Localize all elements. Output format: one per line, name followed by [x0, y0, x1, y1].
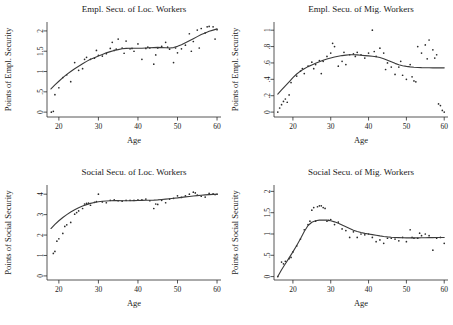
y-tick-label: 1 [263, 232, 272, 236]
x-tick-label: 20 [55, 122, 63, 131]
y-tick-label: 2 [36, 233, 45, 237]
panel-soc-loc: Social Secu. of Loc. Workers012342030405… [0, 163, 226, 325]
panel-soc-mig: Social Secu. of Mig. Workers0.511.522030… [227, 163, 453, 325]
scatter-points [277, 29, 445, 113]
x-tick-label: 60 [440, 122, 448, 131]
y-tick-label: 0 [36, 274, 45, 278]
fit-line [51, 194, 217, 228]
y-axis-label: Points of Social Security [230, 190, 240, 275]
y-tick-label: .5 [36, 89, 45, 95]
y-tick-label: 2 [263, 189, 272, 193]
panel-title: Social Secu. of Loc. Workers [81, 167, 187, 177]
y-tick-label: 1.5 [263, 208, 272, 218]
x-tick-label: 40 [134, 285, 142, 294]
panel-empl-mig: Empl. Secu. of Mig. Workers0.2.4.6.81203… [227, 0, 453, 162]
x-tick-label: 20 [55, 285, 63, 294]
y-tick-label: 4 [36, 192, 45, 196]
panel-title: Social Secu. of Mig. Workers [308, 167, 415, 177]
x-tick-label: 40 [365, 285, 373, 294]
y-tick-label: 1 [36, 69, 45, 73]
x-tick-label: 50 [174, 122, 182, 131]
x-tick-label: 50 [403, 285, 411, 294]
y-tick-label: 0 [263, 110, 272, 114]
panel-title: Empl. Secu. of Mig. Workers [308, 4, 414, 14]
x-axis-label: Age [127, 298, 141, 308]
fit-line [278, 55, 444, 94]
x-tick-label: 40 [134, 122, 142, 131]
x-axis-label: Age [354, 298, 368, 308]
y-tick-label: 3 [36, 212, 45, 216]
x-tick-label: 50 [174, 285, 182, 294]
x-tick-label: 20 [289, 122, 297, 131]
panel-empl-loc: Empl. Secu. of Loc. Workers0.511.5220304… [0, 0, 226, 162]
y-tick-label: .2 [263, 93, 272, 99]
y-tick-label: .4 [263, 76, 272, 82]
x-tick-label: 60 [213, 122, 221, 131]
panel-title: Empl. Secu. of Loc. Workers [82, 4, 187, 14]
fit-line [51, 29, 217, 89]
x-tick-label: 30 [327, 285, 335, 294]
y-axis-label: Points of Social Security [3, 190, 13, 275]
y-tick-label: 1 [263, 28, 272, 32]
x-tick-label: 40 [365, 122, 373, 131]
y-tick-label: .5 [263, 252, 272, 258]
y-tick-label: .8 [263, 44, 272, 50]
y-tick-label: 0 [263, 274, 272, 278]
y-tick-label: 2 [36, 29, 45, 33]
y-tick-label: 1.5 [36, 46, 45, 56]
y-tick-label: 1 [36, 253, 45, 257]
x-axis-label: Age [127, 135, 141, 145]
x-tick-label: 60 [440, 285, 448, 294]
fit-line [278, 220, 444, 277]
x-tick-label: 30 [95, 122, 103, 131]
x-tick-label: 20 [289, 285, 297, 294]
x-tick-label: 50 [403, 122, 411, 131]
y-tick-label: 0 [36, 110, 45, 114]
y-tick-label: .6 [263, 60, 272, 66]
figure-panel-grid: Empl. Secu. of Loc. Workers0.511.5220304… [0, 0, 453, 325]
y-axis-label: Points of Empl. Security [3, 27, 13, 111]
y-axis-label: Points of Empl. Security [230, 27, 240, 111]
x-tick-label: 30 [327, 122, 335, 131]
scatter-points [277, 205, 445, 277]
x-axis-label: Age [354, 135, 368, 145]
x-tick-label: 60 [213, 285, 221, 294]
x-tick-label: 30 [95, 285, 103, 294]
